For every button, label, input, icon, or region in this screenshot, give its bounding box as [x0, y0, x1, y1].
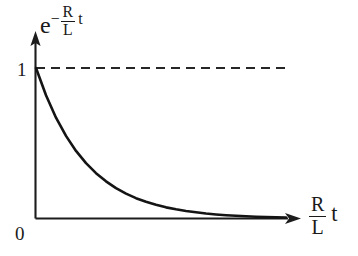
y-axis-label-base: e	[40, 12, 51, 38]
x-r-over-l-fraction: RL	[309, 194, 326, 238]
y-axis-label: e−RLt	[40, 12, 83, 46]
fraction-denominator-l: L	[61, 22, 76, 38]
r-over-l-fraction: RL	[61, 4, 76, 38]
variable-t: t	[75, 11, 82, 27]
y-axis-label-exponent: −RLt	[51, 4, 83, 38]
x-axis-label: RLt	[309, 194, 338, 238]
y-tick-label-one: 1	[17, 59, 27, 80]
x-tick-label-zero: 0	[15, 223, 25, 244]
exponential-decay-curve	[36, 68, 286, 217]
minus-sign: −	[51, 11, 61, 27]
figure-container: 1 0 e−RLt RLt	[0, 0, 358, 256]
x-fraction-numerator-r: R	[309, 194, 326, 217]
fraction-numerator-r: R	[61, 4, 76, 21]
x-variable-t: t	[326, 203, 337, 225]
x-fraction-denominator-l: L	[309, 217, 326, 239]
